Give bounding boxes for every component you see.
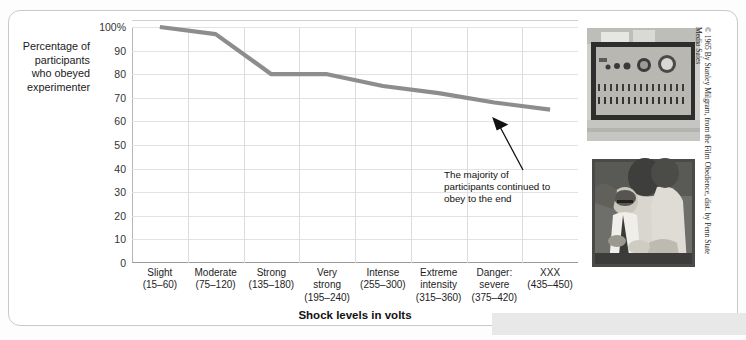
y-axis-tick-label: 10 [86,233,126,245]
photo-credit: © 1965 By Stanley Milgram, from the Film… [693,27,712,277]
x-axis-tick-label: XXX (435–450) [510,267,590,292]
figure-page: Percentage of participants who obeyed ex… [0,0,746,340]
y-axis-tick-label: 50 [86,139,126,151]
shock-generator-photo [587,28,700,141]
y-axis-tick-label: 70 [86,92,126,104]
chart-annotation: The majority of participants continued t… [444,169,556,204]
y-axis-tick-label: 30 [86,186,126,198]
x-axis-title: Shock levels in volts [132,309,578,321]
learner-strapped-photo [587,157,700,277]
chart-top-rule [132,20,578,21]
y-axis-tick-label: 20 [86,210,126,222]
y-axis-tick-label: 60 [86,115,126,127]
y-axis-tick-label: 100% [86,21,126,33]
y-axis-tick-label: 90 [86,45,126,57]
y-axis-tick-label: 80 [86,68,126,80]
y-axis-title: Percentage of participants who obeyed ex… [18,40,90,94]
annotation-arrow-icon [490,112,550,174]
y-axis-tick-label: 40 [86,163,126,175]
